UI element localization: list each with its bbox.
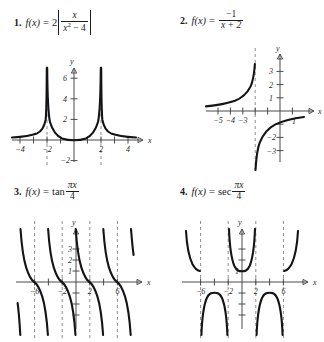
- problem-3-graph: −6 −2 2 6 3 2 1 x y: [0, 215, 162, 342]
- y-axis-name: y: [71, 218, 76, 227]
- x-label-6: 6: [281, 287, 285, 296]
- problem-1-coefficient: 2: [52, 17, 57, 28]
- problem-4-number: 4.: [180, 186, 188, 197]
- problem-1-svg: −4 −2 2 4 6 4 2 −2 x y: [0, 44, 162, 171]
- y-axis-name: y: [275, 44, 280, 53]
- problem-3: 3.f(x)=tanπx4: [0, 171, 162, 342]
- y-label-2: 2: [68, 256, 72, 265]
- x-label-2: 2: [99, 145, 103, 154]
- problem-2-number: 2.: [180, 15, 188, 26]
- problem-3-equals: =: [43, 186, 49, 197]
- problem-1-number: 1.: [14, 17, 22, 28]
- problem-4-graph: −6 −2 2 6 1 x y: [162, 215, 324, 342]
- problem-3-statement: 3.f(x)=tanπx4: [14, 181, 80, 202]
- problem-1-absolute-bars: xx2 − 4: [58, 10, 91, 35]
- problem-1-numerator: x: [61, 11, 88, 22]
- y-axis-name: y: [69, 57, 74, 66]
- problem-2-paren-close: ): [203, 15, 207, 26]
- problem-3-fraction: πx4: [66, 181, 79, 202]
- x-label--6: −6: [196, 287, 205, 296]
- y-label--2: −2: [61, 156, 70, 165]
- problem-1-statement: 1.f(x)=2xx2 − 4: [14, 10, 91, 35]
- problem-2-graph: −5 −4 −3 1 3 2 1 −2 −3 x y: [162, 44, 324, 171]
- y-label-2: 2: [269, 81, 273, 90]
- problem-1: 1.f(x)=2xx2 − 4: [0, 0, 162, 171]
- x-tick-labels: −6 −2 2 6: [30, 287, 120, 296]
- problem-4-statement: 4.f(x)=secπx4: [180, 181, 246, 202]
- x-axis-name: x: [146, 278, 151, 287]
- x-label--2: −2: [42, 145, 51, 154]
- x-axis-name: x: [147, 136, 152, 145]
- problem-4-equals: =: [209, 186, 215, 197]
- problem-2-fraction: −1x + 2: [219, 10, 243, 31]
- x-label--2: −2: [223, 287, 232, 296]
- problem-4-svg: −6 −2 2 6 1 x y: [162, 215, 324, 342]
- problem-3-numerator-var: x: [73, 180, 77, 190]
- problem-4-fraction: πx4: [232, 181, 245, 202]
- y-label-2: 2: [63, 115, 67, 124]
- problem-3-paren-close: ): [37, 186, 41, 197]
- problem-2-svg: −5 −4 −3 1 3 2 1 −2 −3 x y: [162, 44, 324, 171]
- x-label--4: −4: [15, 145, 24, 154]
- x-axis-name: x: [317, 107, 322, 116]
- problem-4-trig-name: sec: [218, 186, 231, 197]
- y-label--3: −3: [267, 147, 276, 156]
- problem-1-fraction: xx2 − 4: [61, 11, 88, 34]
- y-label-3: 3: [268, 67, 273, 76]
- problem-4-paren-close: ): [203, 186, 207, 197]
- problem-2: 2.f(x)=−1x + 2: [162, 0, 324, 171]
- y-tick-labels: 6 4 2 −2: [61, 74, 70, 165]
- problem-4-numerator-var: x: [239, 180, 243, 190]
- axes: [206, 54, 314, 162]
- y-label-3: 3: [67, 245, 72, 254]
- y-tick-labels: 3 2 1: [67, 245, 72, 276]
- y-label--2: −2: [267, 133, 276, 142]
- problem-1-paren-close: ): [37, 17, 41, 28]
- y-label-1: 1: [68, 267, 72, 276]
- axes: [12, 68, 143, 162]
- problem-3-trig-name: tan: [52, 186, 65, 197]
- problem-1-denominator-exponent: 2: [67, 21, 71, 29]
- x-label-2: 2: [254, 287, 258, 296]
- problem-1-graph: −4 −2 2 4 6 4 2 −2 x y: [0, 44, 162, 171]
- problem-3-number: 3.: [14, 186, 22, 197]
- problem-4: 4.f(x)=secπx4: [162, 171, 324, 342]
- problem-3-denominator: 4: [66, 192, 79, 202]
- worksheet-page: 1.f(x)=2xx2 − 4: [0, 0, 324, 342]
- y-axis-name: y: [237, 218, 242, 227]
- problem-1-denominator: x2 − 4: [61, 22, 88, 34]
- x-label--5: −5: [213, 116, 222, 125]
- problem-2-denominator: x + 2: [219, 21, 243, 31]
- x-label-2: 2: [88, 287, 92, 296]
- x-label--4: −4: [226, 116, 235, 125]
- x-axis-name: x: [312, 278, 317, 287]
- problem-3-svg: −6 −2 2 6 3 2 1 x y: [0, 215, 162, 342]
- problem-2-equals: =: [209, 15, 215, 26]
- y-label-6: 6: [63, 74, 67, 83]
- problem-4-denominator: 4: [232, 192, 245, 202]
- problem-2-statement: 2.f(x)=−1x + 2: [180, 10, 244, 31]
- x-label-6: 6: [115, 287, 119, 296]
- problem-1-denominator-rest: − 4: [73, 23, 85, 33]
- y-label-4: 4: [63, 95, 67, 104]
- x-tick-labels: −4 −2 2 4: [15, 145, 130, 154]
- problem-1-equals: =: [43, 17, 49, 28]
- x-label--3: −3: [238, 116, 247, 125]
- x-label-4: 4: [126, 145, 130, 154]
- y-label-1: 1: [269, 94, 273, 103]
